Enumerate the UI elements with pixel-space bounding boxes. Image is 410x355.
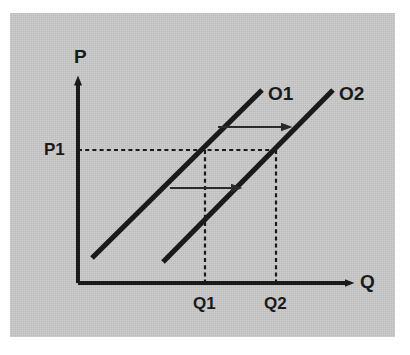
y-tick-label-p1: P1 [44,141,65,158]
x-tick-label-q1: Q1 [193,295,216,312]
curve-label-o2: O2 [339,84,364,103]
curve-label-o1: O1 [268,84,293,103]
supply-shift-figure: P Q P1 Q1 Q2 O1 O2 [0,0,410,355]
supply-curve-o2 [163,90,333,262]
y-axis-label: P [74,47,87,66]
supply-curve-o1 [92,90,262,258]
x-tick-label-q2: Q2 [264,295,287,312]
x-axis-label: Q [360,272,375,291]
